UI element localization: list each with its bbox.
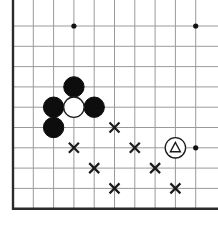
triangle-marked-white-stone bbox=[165, 138, 185, 158]
x-marks bbox=[69, 123, 180, 194]
white-stone-disc bbox=[64, 97, 84, 117]
black-stone-disc bbox=[64, 77, 84, 97]
black-stone bbox=[84, 97, 104, 117]
star-point bbox=[193, 23, 198, 28]
black-stone bbox=[43, 117, 63, 137]
black-stone-disc bbox=[43, 97, 63, 117]
go-board-diagram bbox=[0, 0, 218, 228]
star-point bbox=[193, 145, 198, 150]
white-stone-disc bbox=[165, 138, 185, 158]
black-stone bbox=[64, 77, 84, 97]
board-canvas bbox=[0, 0, 218, 228]
star-point bbox=[71, 23, 76, 28]
white-stone bbox=[64, 97, 84, 117]
black-stone-disc bbox=[43, 117, 63, 137]
black-stone-disc bbox=[84, 97, 104, 117]
black-stone bbox=[43, 97, 63, 117]
